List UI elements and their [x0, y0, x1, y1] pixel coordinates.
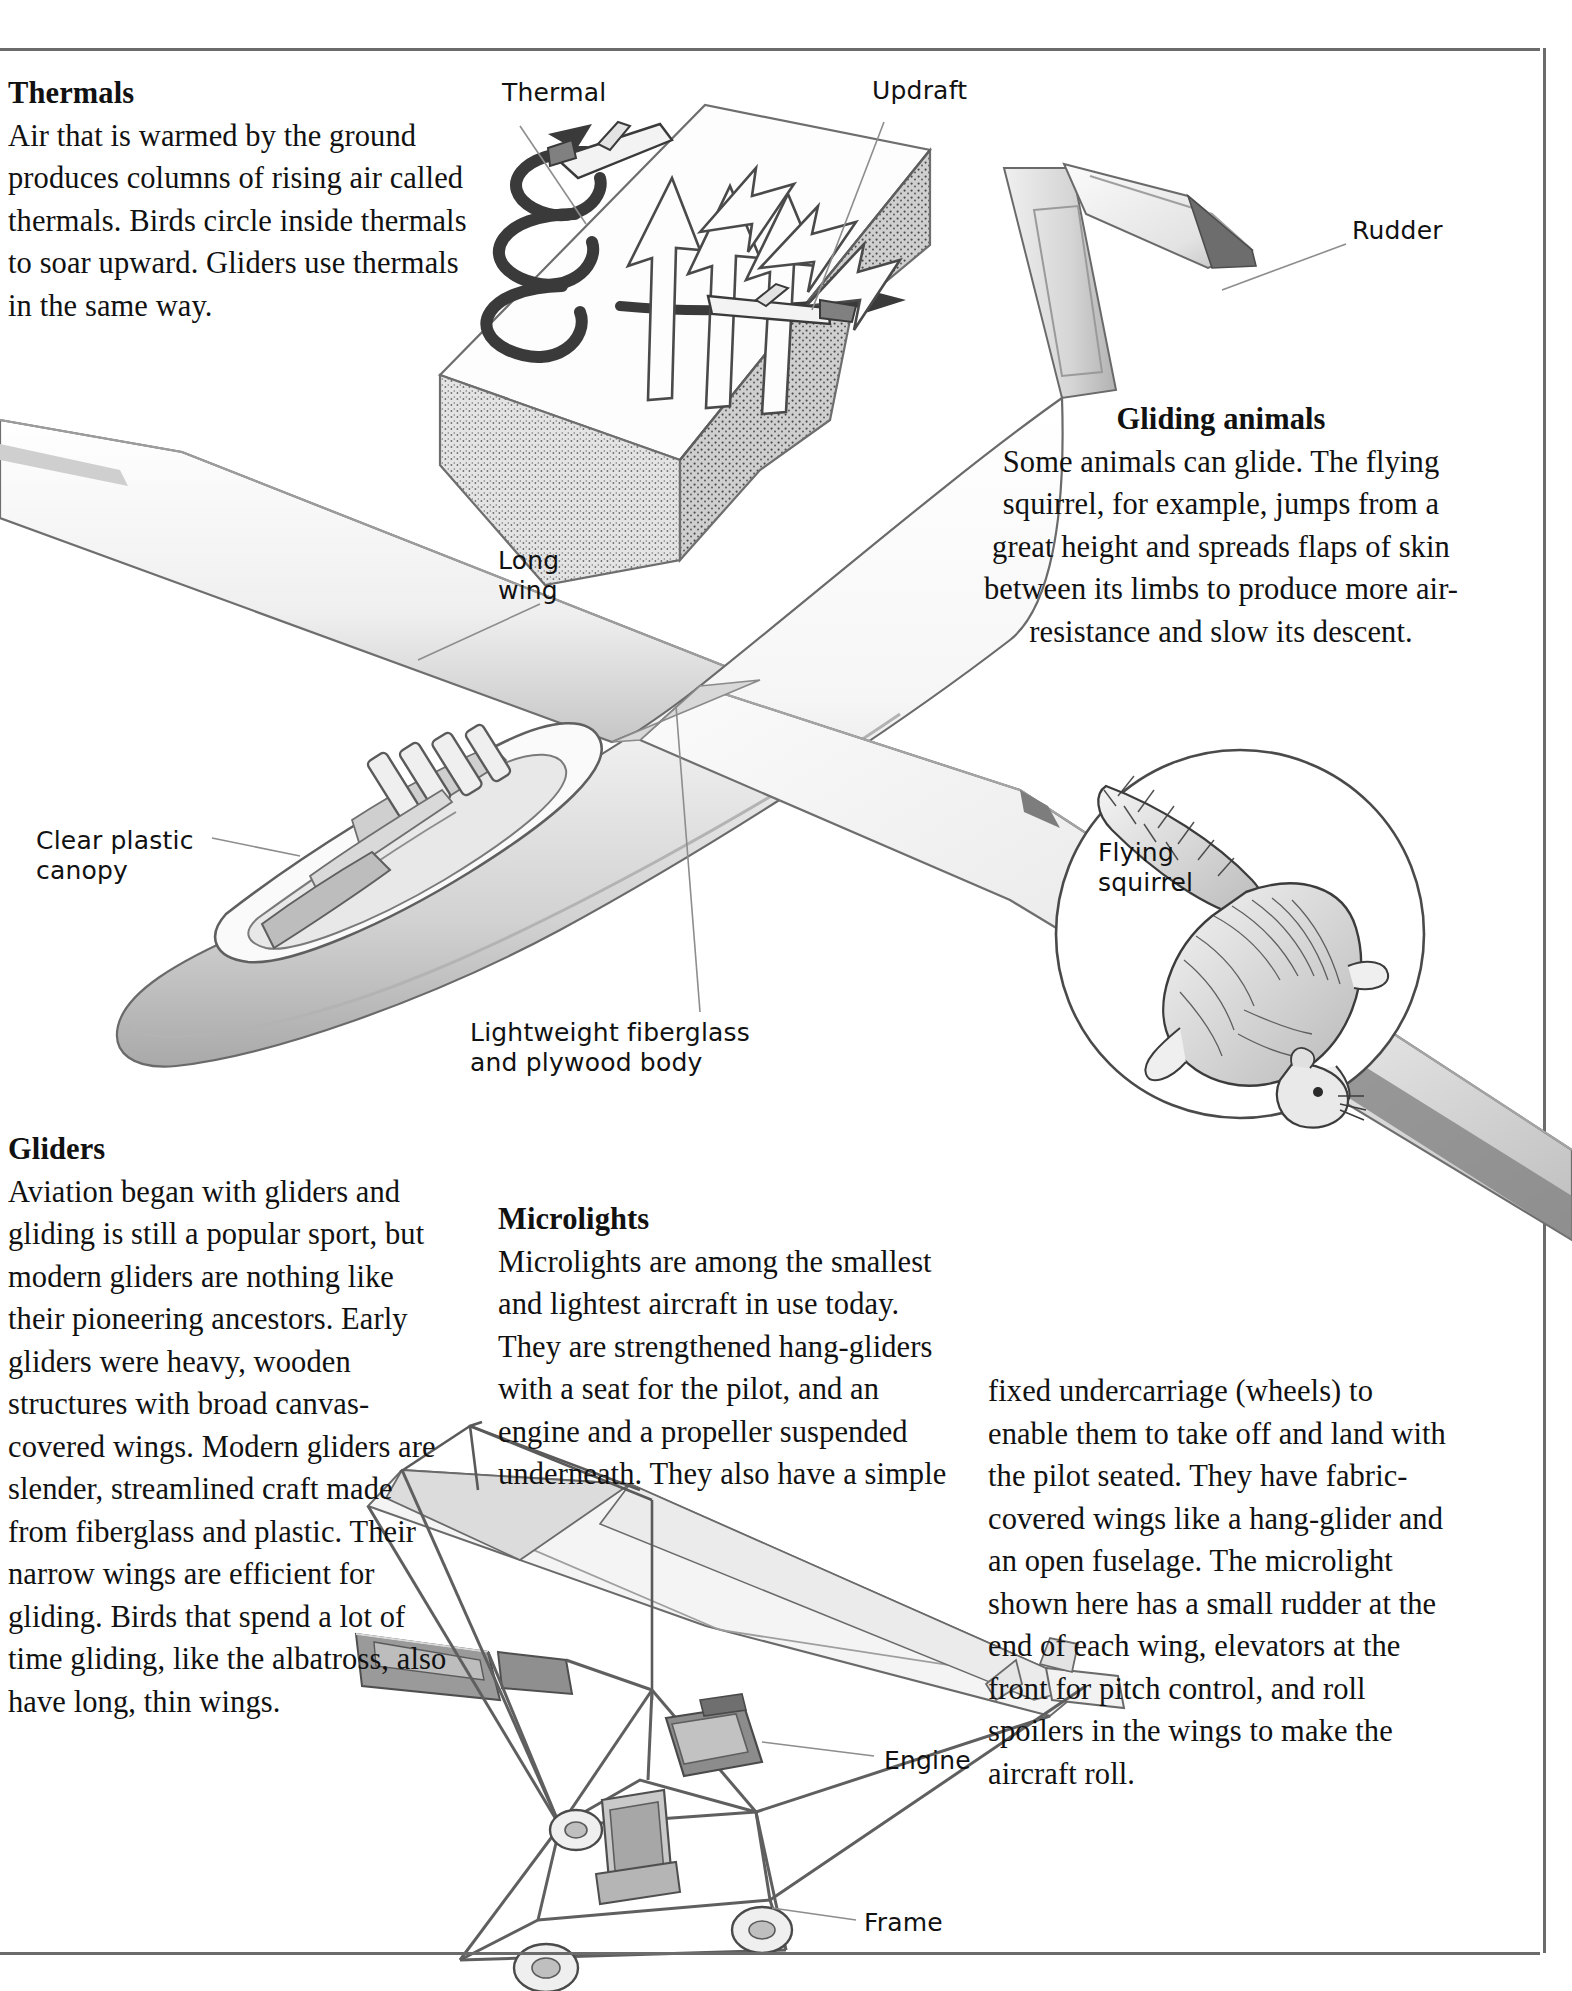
thermals-body: Air that is warmed by the ground produce…: [8, 115, 478, 328]
gliding-animals-body: Some animals can glide. The flying squir…: [982, 441, 1460, 654]
gliders-body: Aviation began with gliders and gliding …: [8, 1171, 456, 1724]
callout-rudder: Rudder: [1352, 216, 1443, 246]
section-microlights: Microlights Microlights are among the sm…: [498, 1198, 960, 1496]
section-gliders: Gliders Aviation began with gliders and …: [8, 1128, 456, 1723]
thermals-heading: Thermals: [8, 72, 478, 115]
callout-long-wing: Long wing: [498, 546, 559, 606]
microlights-continued-body: fixed undercarriage (wheels) to enable t…: [988, 1370, 1456, 1795]
callout-clear-plastic-canopy: Clear plastic canopy: [36, 826, 194, 886]
section-thermals: Thermals Air that is warmed by the groun…: [8, 72, 478, 327]
gliders-heading: Gliders: [8, 1128, 456, 1171]
callout-updraft: Updraft: [872, 76, 967, 106]
section-microlights-continued: fixed undercarriage (wheels) to enable t…: [988, 1370, 1456, 1795]
microlights-heading: Microlights: [498, 1198, 960, 1241]
microlights-body: Microlights are among the smallest and l…: [498, 1241, 960, 1496]
callout-flying-squirrel: Flying squirrel: [1098, 838, 1193, 898]
bottom-rule: [0, 1952, 1540, 1955]
callout-engine: Engine: [884, 1746, 971, 1776]
callout-fiberglass-body: Lightweight fiberglass and plywood body: [470, 1018, 750, 1078]
section-gliding-animals: Gliding animals Some animals can glide. …: [982, 398, 1460, 653]
page-canvas: Thermals Air that is warmed by the groun…: [0, 0, 1572, 1991]
thermal-block-diagram: [440, 105, 930, 585]
gliding-animals-heading: Gliding animals: [982, 398, 1460, 441]
callout-frame: Frame: [864, 1908, 943, 1938]
callout-thermal: Thermal: [502, 78, 606, 108]
